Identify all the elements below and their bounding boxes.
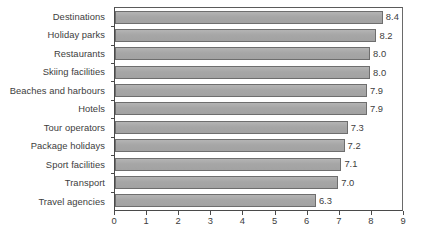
bar: [115, 139, 345, 152]
bar-value-label: 7.9: [370, 104, 383, 113]
category-label: Destinations: [0, 7, 110, 26]
x-axis-tick-label: 0: [111, 216, 116, 225]
bar-row: 7.2: [115, 137, 402, 155]
bar: [115, 176, 338, 189]
x-axis-tick-label: 7: [336, 216, 341, 225]
horizontal-bar-chart: DestinationsHoliday parksRestaurantsSkii…: [0, 0, 421, 237]
x-axis-tick-label: 5: [272, 216, 277, 225]
category-label: Travel agencies: [0, 192, 110, 211]
x-axis-tick-label: 4: [240, 216, 245, 225]
x-axis-tick-label: 2: [176, 216, 181, 225]
bar: [115, 121, 348, 134]
bars-area: 8.48.28.08.07.97.97.37.27.17.06.3: [115, 8, 402, 210]
bar-value-label: 7.0: [341, 178, 354, 187]
bar-row: 6.3: [115, 192, 402, 210]
category-label: Skiing facilities: [0, 63, 110, 82]
bar: [115, 158, 341, 171]
bar-value-label: 8.2: [379, 31, 392, 40]
bar-row: 7.0: [115, 173, 402, 191]
bar: [115, 66, 370, 79]
bar: [115, 29, 376, 42]
bar: [115, 47, 370, 60]
bar: [115, 194, 316, 207]
category-label: Tour operators: [0, 118, 110, 137]
bar-row: 7.9: [115, 100, 402, 118]
category-label: Hotels: [0, 100, 110, 119]
bar-row: 8.0: [115, 45, 402, 63]
bar-row: 8.4: [115, 8, 402, 26]
x-axis-tick-label: 6: [304, 216, 309, 225]
bar-value-label: 7.9: [370, 86, 383, 95]
category-axis: DestinationsHoliday parksRestaurantsSkii…: [0, 7, 110, 211]
category-label: Restaurants: [0, 44, 110, 63]
category-label: Sport facilities: [0, 155, 110, 174]
x-axis-tick-label: 9: [400, 216, 405, 225]
bar-value-label: 6.3: [319, 196, 332, 205]
category-label: Transport: [0, 174, 110, 193]
bar-value-label: 8.0: [373, 49, 386, 58]
bar-value-label: 7.1: [344, 159, 357, 168]
bar: [115, 11, 383, 24]
bar-value-label: 8.0: [373, 68, 386, 77]
category-label: Holiday parks: [0, 26, 110, 45]
caption-sliver: [0, 233, 421, 237]
bar-row: 8.0: [115, 63, 402, 81]
bar: [115, 84, 367, 97]
bar-value-label: 7.3: [351, 123, 364, 132]
bar-row: 7.9: [115, 81, 402, 99]
bar-row: 7.1: [115, 155, 402, 173]
bar-value-label: 7.2: [348, 141, 361, 150]
category-label: Package holidays: [0, 137, 110, 156]
bar-row: 7.3: [115, 118, 402, 136]
bar: [115, 102, 367, 115]
bar-row: 8.2: [115, 26, 402, 44]
bar-value-label: 8.4: [386, 12, 399, 21]
x-axis-tick-label: 3: [208, 216, 213, 225]
plot-frame: 8.48.28.08.07.97.97.37.27.17.06.3: [114, 7, 403, 211]
category-label: Beaches and harbours: [0, 81, 110, 100]
x-axis-tick-label: 1: [144, 216, 149, 225]
x-axis-tick-label: 8: [368, 216, 373, 225]
